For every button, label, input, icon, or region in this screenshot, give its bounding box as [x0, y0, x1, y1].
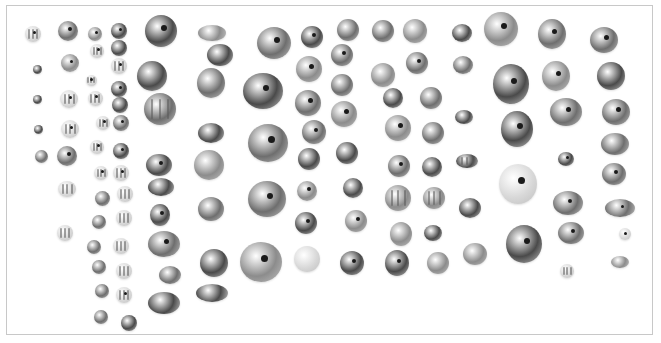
- bead-stripe: [404, 190, 406, 206]
- bead: [200, 249, 228, 277]
- bead-stripe: [563, 267, 565, 275]
- bead-hole: [342, 51, 346, 55]
- bead-stripe: [124, 168, 126, 178]
- bead: [240, 242, 282, 282]
- bead: [112, 97, 128, 113]
- bead: [420, 87, 442, 109]
- bead-hole: [356, 217, 360, 221]
- bead-hole: [568, 199, 572, 203]
- bead-hole: [309, 64, 314, 69]
- bead-hole: [67, 152, 71, 156]
- bead-hole: [121, 120, 124, 123]
- bead-stripe: [151, 99, 153, 118]
- bead-stripe: [159, 99, 161, 118]
- bead: [94, 166, 108, 180]
- bead-stripe: [90, 94, 92, 103]
- bead: [159, 266, 181, 284]
- bead-stripe: [114, 61, 116, 71]
- bead-stripe: [99, 119, 101, 127]
- bead-hole: [263, 85, 269, 91]
- bead: [25, 26, 41, 42]
- bead-stripe: [428, 191, 430, 204]
- bead: [590, 27, 618, 53]
- bead: [207, 44, 233, 66]
- bead-hole: [399, 162, 403, 166]
- bead: [116, 210, 132, 226]
- bead-hole: [308, 98, 313, 103]
- bead-stripe: [68, 228, 70, 238]
- bead: [611, 256, 629, 268]
- bead: [337, 19, 359, 41]
- bead: [198, 197, 224, 221]
- bead: [619, 228, 631, 240]
- bead: [295, 90, 321, 116]
- bead: [113, 115, 129, 131]
- bead: [331, 101, 357, 127]
- bead: [198, 25, 226, 41]
- bead: [96, 116, 110, 130]
- bead: [113, 165, 129, 181]
- bead-hole: [70, 60, 73, 63]
- bead: [58, 181, 76, 197]
- bead-stripe: [98, 94, 100, 103]
- bead: [459, 198, 481, 218]
- bead: [92, 260, 106, 274]
- bead: [558, 152, 574, 166]
- bead-hole: [344, 109, 349, 114]
- bead: [385, 185, 411, 211]
- bead: [92, 215, 106, 229]
- bead-hole: [267, 193, 273, 199]
- bead: [113, 238, 129, 254]
- bead: [385, 115, 411, 141]
- bead: [340, 251, 364, 275]
- bead-hole: [417, 59, 421, 63]
- bead: [424, 225, 442, 241]
- bead-stripe: [93, 77, 95, 84]
- bead-stripe: [65, 124, 67, 135]
- bead: [257, 27, 291, 59]
- bead-stripe: [391, 190, 393, 206]
- bead: [493, 64, 529, 104]
- bead: [602, 99, 630, 125]
- bead-stripe: [120, 189, 122, 199]
- bead-hole: [119, 28, 122, 31]
- bead-hole: [121, 148, 124, 151]
- bead-hole: [274, 37, 280, 43]
- bead: [121, 315, 137, 331]
- bead-stripe: [100, 143, 102, 151]
- bead: [111, 81, 127, 97]
- bead-stripe: [73, 94, 75, 105]
- bead: [331, 44, 353, 66]
- bead: [111, 40, 127, 56]
- bead-hole: [161, 25, 167, 31]
- bead-stripe: [472, 157, 474, 165]
- bead: [137, 61, 167, 91]
- bead: [94, 310, 108, 324]
- bead-hole: [306, 219, 310, 223]
- bead-hole: [397, 259, 401, 263]
- bead: [372, 20, 394, 42]
- bead: [88, 27, 102, 41]
- bead: [90, 140, 104, 154]
- bead-stripe: [128, 189, 130, 199]
- bead-hole: [261, 255, 268, 262]
- bead: [296, 56, 322, 82]
- bead: [343, 178, 363, 198]
- bead-stripe: [62, 184, 64, 194]
- bead-stripe: [106, 119, 108, 127]
- bead-stripe: [116, 168, 118, 178]
- bead: [144, 93, 176, 125]
- bead: [116, 287, 132, 303]
- bead: [243, 73, 283, 109]
- bead-stripe: [167, 99, 169, 118]
- bead: [553, 191, 583, 215]
- bead-hole: [624, 232, 627, 235]
- bead-stripe: [122, 61, 124, 71]
- bead-stripe: [71, 184, 73, 194]
- bead-hole: [552, 29, 557, 34]
- bead: [297, 181, 317, 201]
- bead: [422, 122, 444, 144]
- bead-stripe: [127, 213, 129, 223]
- bead-stripe: [566, 267, 568, 275]
- bead-stripe: [119, 290, 121, 300]
